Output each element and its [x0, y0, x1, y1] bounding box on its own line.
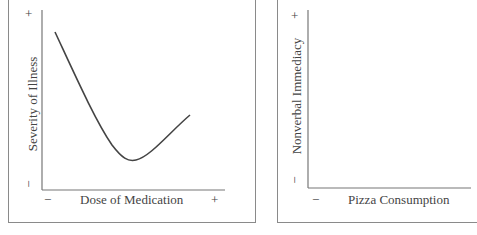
left-y-minus-tick: −	[21, 180, 37, 187]
right-y-plus-tick: +	[291, 8, 298, 24]
dose-severity-curve	[55, 32, 190, 160]
left-x-minus-tick: −	[44, 192, 51, 208]
right-y-minus-tick: −	[287, 176, 303, 183]
right-x-minus-tick: −	[312, 192, 319, 208]
left-x-axis-label: Dose of Medication	[80, 192, 183, 208]
chart-panel-pizza-immediacy	[277, 0, 477, 223]
left-y-plus-tick: +	[25, 6, 32, 22]
left-x-plus-tick: +	[211, 192, 218, 208]
right-y-axis-label: Nonverbal Immediacy	[289, 36, 305, 156]
left-y-axis-label: Severity of Illness	[25, 49, 41, 159]
right-x-axis-label: Pizza Consumption	[348, 192, 449, 208]
